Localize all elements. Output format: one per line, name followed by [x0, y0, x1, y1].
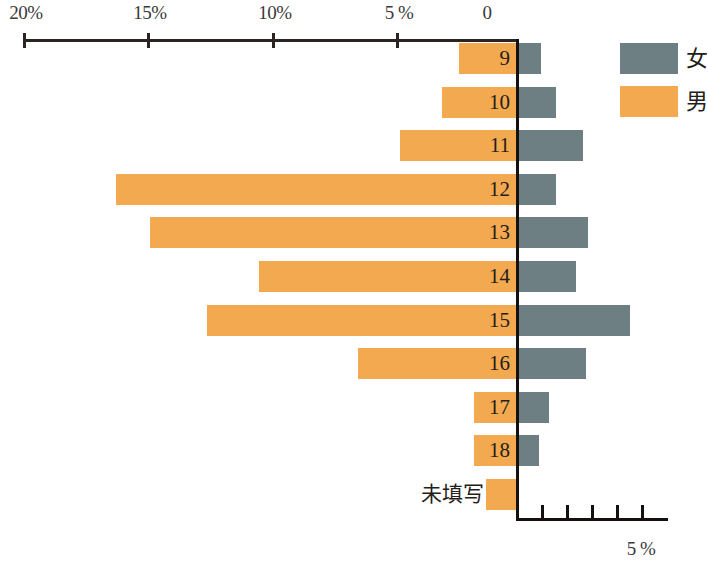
legend-swatch-female: [620, 43, 678, 74]
bottom-axis-tick-3: [591, 505, 594, 519]
top-axis-label-15: 15%: [133, 2, 166, 24]
row-label-12: 12: [489, 174, 510, 205]
bar-male-12: [116, 174, 516, 205]
row-label-15: 15: [489, 305, 510, 336]
top-axis-tick-5: [396, 33, 399, 48]
bottom-axis-label-5: 5 %: [627, 538, 656, 560]
row-label-9: 9: [500, 43, 511, 74]
row-label-17: 17: [489, 392, 510, 423]
legend-label-female: 女: [686, 43, 708, 74]
row-label-10: 10: [489, 87, 510, 118]
row-label-16: 16: [489, 348, 510, 379]
legend-label-male: 男: [686, 86, 708, 117]
top-axis-label-10: 10%: [258, 2, 291, 24]
bar-female-13: [519, 217, 588, 248]
bar-female-10: [519, 87, 556, 118]
bar-female-15: [519, 305, 630, 336]
bar-male-13: [150, 217, 516, 248]
bar-female-12: [519, 174, 556, 205]
bar-male-未填写: [486, 479, 516, 510]
row-label-18: 18: [489, 435, 510, 466]
bottom-axis-tick-2: [566, 505, 569, 519]
top-axis-tick-10: [272, 33, 275, 48]
bottom-axis-tick-4: [616, 505, 619, 519]
bottom-axis-tick-1: [541, 505, 544, 519]
legend-swatch-male: [620, 86, 678, 117]
top-axis-tick-20: [23, 33, 26, 48]
row-label-11: 11: [490, 130, 510, 161]
top-axis-label-5: 5 %: [385, 2, 414, 24]
bar-male-15: [207, 305, 516, 336]
bar-male-14: [259, 261, 516, 292]
row-label-14: 14: [489, 261, 510, 292]
bar-female-11: [519, 130, 583, 161]
top-axis-line: [23, 39, 519, 42]
bottom-axis-tick-5: [641, 505, 644, 519]
bar-female-16: [519, 348, 586, 379]
bar-female-18: [519, 435, 539, 466]
row-label-13: 13: [489, 217, 510, 248]
top-axis-tick-15: [147, 33, 150, 48]
top-axis-label-20: 20%: [9, 2, 42, 24]
bar-female-17: [519, 392, 549, 423]
row-label-未填写: 未填写: [421, 479, 484, 510]
top-axis-label-0: 0: [483, 2, 492, 24]
bar-female-9: [519, 43, 541, 74]
bar-female-14: [519, 261, 576, 292]
